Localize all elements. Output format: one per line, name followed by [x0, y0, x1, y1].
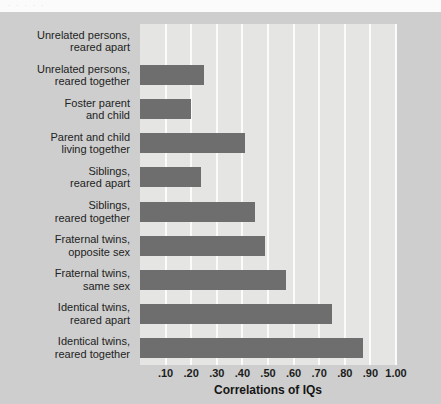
category-label: Fraternal twins,same sex: [55, 267, 130, 292]
category-label-row: Fraternal twins,opposite sex: [0, 229, 136, 263]
category-label-row: Identical twins,reared together: [0, 331, 136, 365]
category-label: Parent and childliving together: [51, 131, 131, 156]
x-tick-label: .10: [158, 367, 173, 379]
bar-row: [140, 194, 396, 228]
x-tick-label: .20: [184, 367, 199, 379]
clipped-caption-strip: · · · · ·: [0, 0, 441, 12]
category-label-row: Parent and childliving together: [0, 126, 136, 160]
category-label: Foster parentand child: [65, 97, 130, 122]
bar: [140, 304, 332, 324]
x-tick-label: .50: [260, 367, 275, 379]
x-tick-label: .80: [337, 367, 352, 379]
chart-panel: Unrelated persons,reared apartUnrelated …: [0, 12, 441, 404]
category-label-row: Unrelated persons,reared together: [0, 58, 136, 92]
bar: [140, 133, 245, 153]
category-label: Siblings,reared together: [55, 199, 130, 224]
bar: [140, 65, 204, 85]
x-tick-label: .70: [312, 367, 327, 379]
bar-row: [140, 92, 396, 126]
bar-row: [140, 331, 396, 365]
category-label-row: Unrelated persons,reared apart: [0, 24, 136, 58]
bar: [140, 270, 286, 290]
category-label-row: Foster parentand child: [0, 92, 136, 126]
x-tick-label: .40: [235, 367, 250, 379]
category-label-row: Identical twins,reared apart: [0, 297, 136, 331]
bar: [140, 202, 255, 222]
category-label: Unrelated persons,reared together: [37, 63, 130, 88]
x-tick-label: .30: [209, 367, 224, 379]
x-tick-label: .90: [363, 367, 378, 379]
category-label: Siblings,reared apart: [70, 165, 130, 190]
bar-row: [140, 58, 396, 92]
x-axis-tick-labels: .10.20.30.40.50.60.70.80.901.00: [140, 367, 400, 383]
iq-correlation-bar-chart: · · · · · Unrelated persons,reared apart…: [0, 0, 441, 404]
category-label-row: Fraternal twins,same sex: [0, 263, 136, 297]
bar-row: [140, 24, 396, 58]
bar: [140, 338, 363, 358]
bar-row: [140, 126, 396, 160]
category-label-row: Siblings,reared together: [0, 194, 136, 228]
bar: [140, 167, 201, 187]
category-label: Identical twins,reared apart: [58, 301, 130, 326]
bar-row: [140, 160, 396, 194]
x-tick-label: 1.00: [385, 367, 406, 379]
x-axis-title: Correlations of IQs: [140, 383, 396, 397]
bar: [140, 236, 265, 256]
category-label-row: Siblings,reared apart: [0, 160, 136, 194]
category-label: Unrelated persons,reared apart: [37, 29, 130, 54]
category-label: Identical twins,reared together: [55, 335, 130, 360]
bar-row: [140, 229, 396, 263]
bar-series: [140, 24, 396, 365]
bar-row: [140, 263, 396, 297]
category-label: Fraternal twins,opposite sex: [55, 233, 130, 258]
x-tick-label: .60: [286, 367, 301, 379]
bar-row: [140, 297, 396, 331]
bar: [140, 99, 191, 119]
category-axis-labels: Unrelated persons,reared apartUnrelated …: [0, 24, 136, 365]
